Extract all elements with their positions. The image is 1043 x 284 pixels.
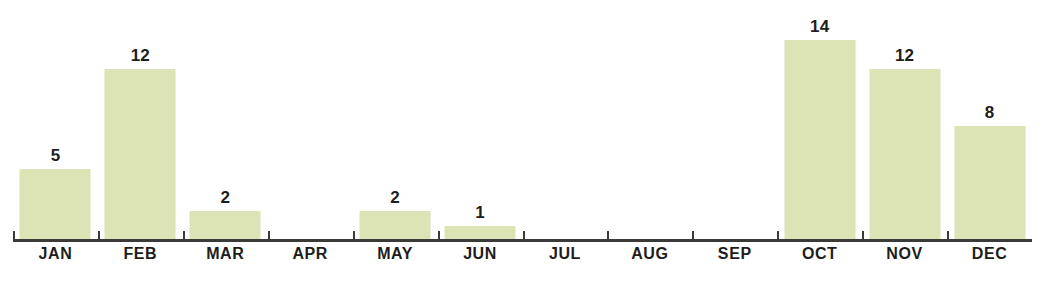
- bar-rect-dec: [954, 126, 1025, 240]
- bar-value-label-nov: 12: [895, 46, 914, 66]
- bar-mar: 2: [183, 0, 268, 240]
- bar-chart: 51222114128 JANFEBMARAPRMAYJUNJULAUGSEPO…: [0, 0, 1043, 284]
- bar-value-label-jun: 1: [475, 203, 485, 223]
- bar-value-label-mar: 2: [220, 188, 230, 208]
- bar-dec: 8: [947, 0, 1032, 240]
- axis-tick: [268, 231, 270, 240]
- axis-tick: [947, 231, 949, 240]
- axis-tick: [777, 231, 779, 240]
- bar-oct: 14: [777, 0, 862, 240]
- category-label-jul: JUL: [523, 245, 608, 263]
- category-label-apr: APR: [268, 245, 353, 263]
- bar-value-label-feb: 12: [131, 46, 150, 66]
- bar-value-label-oct: 14: [810, 17, 829, 37]
- category-label-oct: OCT: [777, 245, 862, 263]
- plot-area: 51222114128: [13, 0, 1032, 240]
- bar-feb: 12: [98, 0, 183, 240]
- category-label-jun: JUN: [438, 245, 523, 263]
- bar-sep: [692, 0, 777, 240]
- bar-value-label-may: 2: [390, 188, 400, 208]
- bar-value-label-dec: 8: [985, 103, 995, 123]
- axis-tick: [13, 231, 15, 240]
- category-label-aug: AUG: [607, 245, 692, 263]
- bar-rect-jun: [445, 226, 516, 240]
- axis-tick: [183, 231, 185, 240]
- bar-nov: 12: [862, 0, 947, 240]
- bar-jul: [523, 0, 608, 240]
- axis-tick: [862, 231, 864, 240]
- axis-tick: [98, 231, 100, 240]
- category-label-sep: SEP: [692, 245, 777, 263]
- bar-rect-feb: [105, 69, 176, 240]
- axis-tick: [438, 231, 440, 240]
- category-label-jan: JAN: [13, 245, 98, 263]
- category-label-mar: MAR: [183, 245, 268, 263]
- bar-rect-nov: [869, 69, 940, 240]
- bar-jun: 1: [438, 0, 523, 240]
- category-label-dec: DEC: [947, 245, 1032, 263]
- axis-tick: [607, 231, 609, 240]
- category-label-feb: FEB: [98, 245, 183, 263]
- x-axis-category-labels: JANFEBMARAPRMAYJUNJULAUGSEPOCTNOVDEC: [13, 245, 1032, 275]
- bar-rect-oct: [784, 40, 855, 240]
- bar-value-label-jan: 5: [51, 146, 61, 166]
- axis-tick: [353, 231, 355, 240]
- bar-rect-may: [360, 211, 431, 240]
- bar-rect-mar: [190, 211, 261, 240]
- axis-tick: [523, 231, 525, 240]
- bar-rect-jan: [20, 169, 91, 240]
- category-label-may: MAY: [353, 245, 438, 263]
- bar-aug: [607, 0, 692, 240]
- bar-apr: [268, 0, 353, 240]
- bar-may: 2: [353, 0, 438, 240]
- axis-tick: [692, 231, 694, 240]
- bar-jan: 5: [13, 0, 98, 240]
- category-label-nov: NOV: [862, 245, 947, 263]
